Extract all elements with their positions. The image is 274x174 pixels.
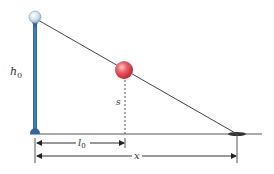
lamp-height-label: h0 [10,65,22,80]
ball [115,61,133,79]
lamp-post [29,11,41,134]
ball-height-label: s [116,97,121,107]
lamp-globe-icon [29,11,41,23]
lamp-shadow-diagram: h0 s l0 x [0,0,274,174]
light-ray [38,20,237,134]
shadow-distance-label: x [134,150,140,161]
ball-distance-label: l0 [78,137,86,150]
lamp-base [30,128,40,134]
lamp-pole [33,22,37,132]
